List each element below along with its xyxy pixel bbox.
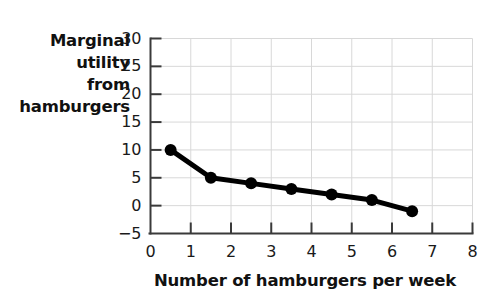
x-tick-label: 7 [417,242,447,261]
x-tick-label: 0 [136,242,166,261]
x-tick-label: 6 [377,242,407,261]
x-tick-label: 5 [337,242,367,261]
data-point-marker [245,177,257,189]
y-tick-label: 30 [102,29,142,48]
data-point-marker [165,144,177,156]
y-tick-label: −5 [102,224,142,243]
data-point-marker [285,183,297,195]
data-point-marker [326,189,338,201]
x-tick-label: 1 [176,242,206,261]
x-tick-label: 3 [256,242,286,261]
x-tick-label: 4 [297,242,327,261]
gridlines [151,39,473,234]
data-point-marker [406,205,418,217]
data-point-marker [366,194,378,206]
y-tick-label: 25 [102,56,142,75]
y-tick-label: 0 [102,196,142,215]
x-tick-label: 2 [216,242,246,261]
y-tick-label: 5 [102,168,142,187]
data-markers [165,144,419,217]
y-tick-label: 20 [102,84,142,103]
y-tick-label: 10 [102,140,142,159]
y-tick-label: 15 [102,112,142,131]
data-point-marker [205,172,217,184]
x-tick-label: 8 [458,242,488,261]
x-axis-title: Number of hamburgers per week [130,271,480,290]
chart-figure: Marginal utility from hamburgers 3025201… [0,0,493,298]
